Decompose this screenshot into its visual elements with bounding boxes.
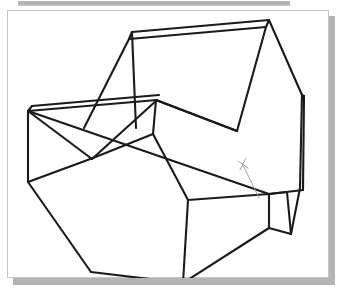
edge-back-wall-top-near: [129, 27, 266, 39]
edge-right-flange-bottom: [269, 228, 291, 234]
edge-right-flange-outer: [287, 192, 291, 234]
edge-center-post: [153, 100, 156, 134]
edge-left-flange-inner-diag2: [92, 100, 157, 159]
edge-right-outer-cap: [302, 95, 304, 96]
scanned-page-root: Isometric wireframe object Pictorial iso…: [0, 0, 338, 293]
edge-right-flange-up: [291, 188, 300, 234]
edge-left-bottom-diag: [28, 182, 91, 272]
isometric-figure: [7, 10, 329, 278]
drawing-canvas: [7, 10, 329, 278]
edge-left-wall-fold: [28, 158, 93, 182]
edge-center-ledge-left: [93, 134, 153, 158]
edge-front-block-vertical-left: [183, 200, 188, 278]
edge-right-outer-vertical-2: [303, 96, 304, 190]
leader-line-stroke: [243, 165, 259, 198]
edge-front-block-bottom: [183, 228, 269, 278]
edge-back-wall-top-far: [132, 20, 269, 32]
edge-front-block-top-right: [188, 194, 269, 200]
edge-back-wall-right-slope: [269, 20, 302, 95]
faint-leader-line: [238, 158, 259, 198]
edge-center-ledge-right: [153, 134, 188, 200]
leader-tick-stroke-2: [240, 158, 246, 170]
edge-floor-front-left: [91, 272, 183, 278]
edge-center-ledge-back: [156, 100, 237, 131]
edge-back-wall-left-inner-vert: [132, 32, 136, 128]
edge-back-wall-inner-right: [237, 27, 266, 131]
edge-right-outer-vertical: [300, 95, 302, 188]
scan-artifact-bar: [18, 1, 290, 6]
figure-main-strokes: [28, 20, 304, 278]
edge-left-flange-inner-diag: [28, 111, 92, 159]
edge-back-wall-left-slope: [84, 39, 129, 128]
edge-long-mid-diagonal: [28, 111, 269, 194]
